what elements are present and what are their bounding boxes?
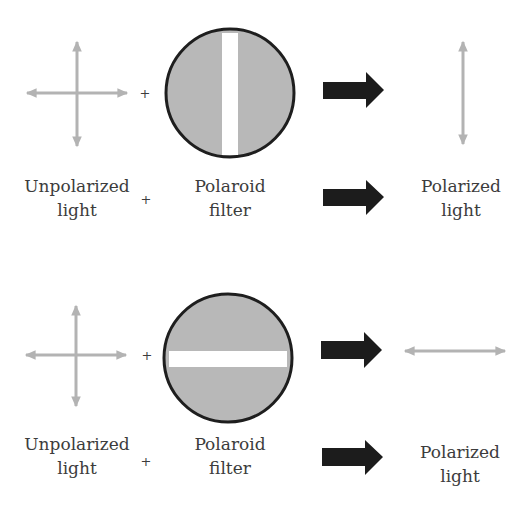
label-line-2: filter (194, 198, 265, 222)
unpolarized-light-icon-row1 (27, 42, 127, 146)
polarization-diagram: + Unpolarized light + Polaroid filter Po… (0, 0, 532, 515)
polaroid-filter-horizontal-icon (164, 294, 292, 422)
unpolarized-light-label: Unpolarized light (24, 174, 129, 222)
label-line-1: Polaroid (194, 432, 265, 456)
polaroid-filter-vertical-icon (166, 29, 294, 157)
label-line-1: Unpolarized (24, 432, 129, 456)
right-arrow-icon-row2-label (322, 440, 383, 475)
plus-operator-label: + (141, 193, 152, 207)
label-line-1: Polarized (421, 174, 501, 198)
unpolarized-light-label: Unpolarized light (24, 432, 129, 480)
right-arrow-icon-row2-top (321, 332, 382, 368)
label-line-2: light (421, 198, 501, 222)
right-arrow-icon-row1-label (323, 180, 384, 215)
polaroid-filter-label: Polaroid filter (194, 174, 265, 222)
label-line-1: Polaroid (194, 174, 265, 198)
label-line-2: light (24, 198, 129, 222)
label-line-2: light (24, 456, 129, 480)
label-line-2: filter (194, 456, 265, 480)
label-line-1: Unpolarized (24, 174, 129, 198)
plus-operator-top: + (140, 87, 151, 101)
polarized-light-label: Polarized light (421, 174, 501, 222)
right-arrow-icon-row1-top (323, 72, 384, 108)
label-line-1: Polarized (420, 440, 500, 464)
polaroid-filter-label: Polaroid filter (194, 432, 265, 480)
unpolarized-light-icon-row2 (26, 306, 126, 406)
plus-operator-top: + (142, 349, 153, 363)
polarized-light-label: Polarized light (420, 440, 500, 488)
plus-operator-label: + (141, 455, 152, 469)
label-line-2: light (420, 464, 500, 488)
